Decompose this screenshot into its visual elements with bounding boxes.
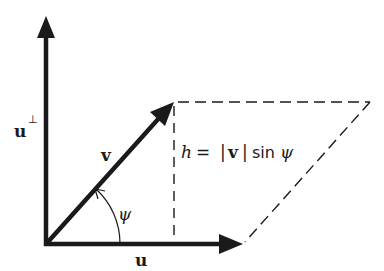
svg-text:|: | (242, 142, 248, 162)
svg-text:v: v (227, 142, 239, 162)
arrowhead-icon (37, 16, 55, 38)
svg-text:sin: sin (252, 143, 275, 162)
u-perp-vector (37, 16, 55, 246)
v-vector (47, 102, 174, 243)
angle-arc (95, 189, 120, 244)
svg-text:=: = (196, 142, 210, 162)
svg-text:ψ: ψ (280, 142, 294, 162)
v-label: v (100, 145, 112, 165)
height-formula: h = | v | sin ψ (181, 142, 294, 162)
arrowhead-icon (219, 234, 243, 254)
perp-symbol: ⊥ (28, 113, 38, 126)
u-perp-label: u (14, 121, 26, 141)
u-label: u (135, 250, 147, 270)
svg-text:|: | (220, 142, 226, 162)
svg-text:h: h (181, 142, 192, 162)
parallelogram-diagram: u ⊥ v ψ u h = | v | sin ψ (0, 0, 384, 271)
parallelogram-right-edge (245, 102, 370, 242)
psi-label: ψ (118, 204, 132, 224)
